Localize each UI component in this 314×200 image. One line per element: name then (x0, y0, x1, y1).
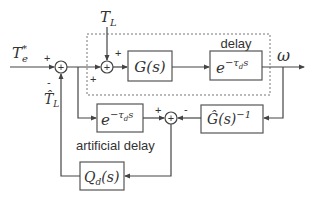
estimated-load-feedback-arrow (61, 74, 80, 176)
artificial-delay-block: e−τds (97, 104, 143, 132)
svg-text:Qd(s): Qd(s) (84, 169, 119, 187)
load-torque-label: TL (100, 8, 117, 28)
block-diagram: T*e + - + TL + + + G(s) delay e−τds ω Ĝ(… (0, 0, 314, 200)
output-omega-label: ω (277, 46, 290, 65)
svg-text:+: + (58, 61, 64, 73)
artificial-delay-caption: artificial delay (76, 138, 155, 153)
sum2-top-plus-sign: + (115, 47, 121, 59)
svg-text:+: + (104, 61, 110, 73)
sum-junction-2: + (101, 61, 113, 73)
sum-junction-1: + (55, 61, 67, 73)
sum1-plus-sign: + (44, 52, 50, 64)
estimated-load-label: T̂L (44, 90, 59, 109)
sum3-minus-sign: - (184, 103, 188, 115)
plant-block: G(s) (128, 51, 172, 81)
reference-torque-label: T*e (12, 43, 28, 64)
output-feedback-arrow (264, 67, 283, 118)
sum1-minus-sign: - (47, 76, 51, 88)
sum3-plus-sign: + (155, 104, 161, 116)
sum2-left-plus-sign: + (90, 73, 96, 85)
sum-junction-3: + (165, 112, 177, 124)
filter-block: Qd(s) (80, 162, 124, 190)
svg-text:G(s): G(s) (134, 58, 166, 76)
delay-caption: delay (220, 36, 252, 51)
inverse-model-block: Ĝ(s)−1 (201, 105, 263, 133)
delay-block: e−τds (210, 51, 262, 80)
svg-text:+: + (168, 112, 174, 124)
